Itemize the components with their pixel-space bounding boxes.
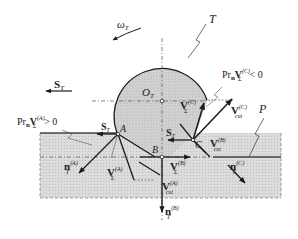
feed-top-label: ST	[54, 78, 65, 92]
tool-center-point	[160, 99, 164, 103]
tool-leader	[188, 24, 206, 58]
point-b	[160, 155, 164, 159]
point-b-label: B	[152, 144, 158, 155]
v-cut-c-label: V(C)cut	[231, 104, 247, 119]
feed-a-label: ST	[101, 121, 111, 133]
pr-a-label: PrnV(A)Σ> 0	[17, 115, 57, 129]
point-a-label: A	[119, 123, 127, 134]
normal-b-label: n(B)T	[165, 205, 179, 220]
pr-c-label: PrnV(C)Σ< 0	[222, 68, 263, 82]
point-c-label: C	[195, 139, 202, 150]
tool-label: T	[209, 12, 217, 26]
workpiece-label: P	[258, 102, 267, 116]
diagram-canvas: T P ωT OT ST PrnV(A)Σ> 0 PrnV(C)Σ< 0 ST …	[0, 0, 298, 239]
omega-label: ωT	[117, 18, 130, 32]
